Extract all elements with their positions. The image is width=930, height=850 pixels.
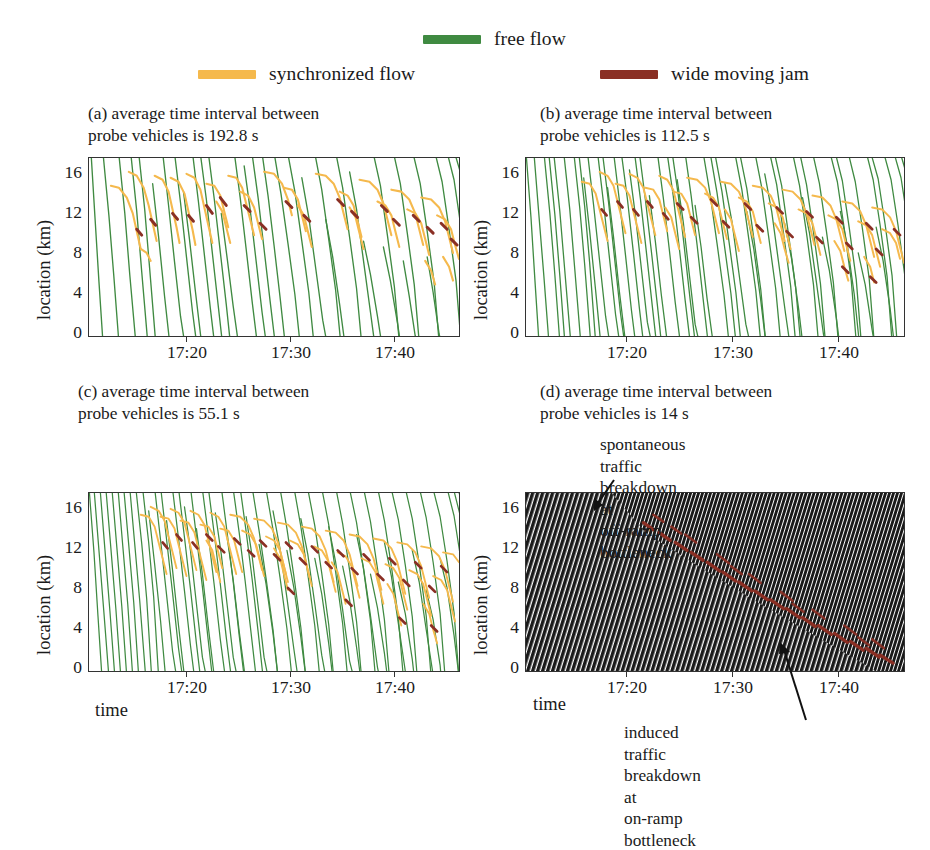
y-tick-label-a-8: 8 [48, 242, 82, 263]
y-tick-label-a-4: 4 [48, 282, 82, 303]
plot-area-b [525, 157, 905, 337]
y-axis-label-d: location (km) [471, 555, 492, 655]
x-tick-label-a-1740: 17:40 [364, 342, 426, 363]
y-axis-label-a: location (km) [34, 220, 55, 320]
plot-area-c [88, 492, 460, 672]
panel-caption-c: (c) average time interval between probe … [78, 381, 309, 424]
x-tick-label-d-1720: 17:20 [596, 677, 658, 698]
legend-item-synchronized-flow: synchronized flow [198, 63, 415, 85]
y-tick-label-c-4: 4 [48, 617, 82, 638]
y-tick-label-c-16: 16 [48, 497, 82, 518]
y-tick-label-d-4: 4 [485, 617, 519, 638]
x-axis-label-d: time [533, 694, 566, 715]
y-tick-label-d-8: 8 [485, 577, 519, 598]
annotation-induced-breakdown: induced traffic breakdown at on-ramp bot… [624, 722, 701, 850]
y-tick-label-a-0: 0 [48, 322, 82, 343]
legend-label-free-flow: free flow [494, 28, 566, 50]
panel-caption-b: (b) average time interval between probe … [540, 103, 772, 146]
y-tick-label-a-12: 12 [48, 202, 82, 223]
y-tick-label-d-12: 12 [485, 537, 519, 558]
x-axis-label-c: time [95, 700, 128, 721]
y-tick-label-a-16: 16 [48, 162, 82, 183]
trajectory-canvas-d [526, 493, 904, 671]
y-tick-label-c-8: 8 [48, 577, 82, 598]
legend-item-free-flow: free flow [423, 28, 566, 50]
x-tick-label-d-1740: 17:40 [808, 677, 870, 698]
x-tick-label-a-1730: 17:30 [260, 342, 322, 363]
line-swatch-green-icon [423, 35, 481, 44]
y-axis-label-c: location (km) [34, 555, 55, 655]
x-tick-label-b-1740: 17:40 [808, 342, 870, 363]
trajectory-canvas-c [89, 493, 459, 671]
y-tick-label-b-8: 8 [485, 242, 519, 263]
x-tick-label-c-1740: 17:40 [364, 677, 426, 698]
y-tick-label-c-0: 0 [48, 657, 82, 678]
line-swatch-orange-icon [198, 70, 256, 79]
y-tick-label-b-12: 12 [485, 202, 519, 223]
annotation-arrow-top-icon [588, 478, 618, 514]
plot-area-d [525, 492, 905, 672]
x-tick-label-b-1720: 17:20 [596, 342, 658, 363]
y-axis-label-b: location (km) [471, 220, 492, 320]
x-tick-label-b-1730: 17:30 [702, 342, 764, 363]
panel-caption-a: (a) average time interval between probe … [88, 103, 319, 146]
x-tick-label-a-1720: 17:20 [156, 342, 218, 363]
x-tick-label-d-1730: 17:30 [702, 677, 764, 698]
y-tick-label-d-16: 16 [485, 497, 519, 518]
legend: free flow synchronized flow wide moving … [0, 0, 930, 96]
y-tick-label-b-0: 0 [485, 322, 519, 343]
legend-item-wide-moving-jam: wide moving jam [600, 63, 809, 85]
y-tick-label-c-12: 12 [48, 537, 82, 558]
trajectory-canvas-a [89, 158, 459, 336]
legend-label-wide-moving-jam: wide moving jam [671, 63, 809, 85]
legend-label-synchronized-flow: synchronized flow [269, 63, 415, 85]
annotation-arrow-bottom-icon [776, 640, 812, 722]
trajectory-canvas-b [526, 158, 904, 336]
y-tick-label-b-16: 16 [485, 162, 519, 183]
line-swatch-darkred-icon [600, 70, 658, 79]
panel-caption-d: (d) average time interval between probe … [540, 381, 772, 424]
x-tick-label-c-1730: 17:30 [260, 677, 322, 698]
plot-area-a [88, 157, 460, 337]
y-tick-label-d-0: 0 [485, 657, 519, 678]
x-tick-label-c-1720: 17:20 [156, 677, 218, 698]
y-tick-label-b-4: 4 [485, 282, 519, 303]
